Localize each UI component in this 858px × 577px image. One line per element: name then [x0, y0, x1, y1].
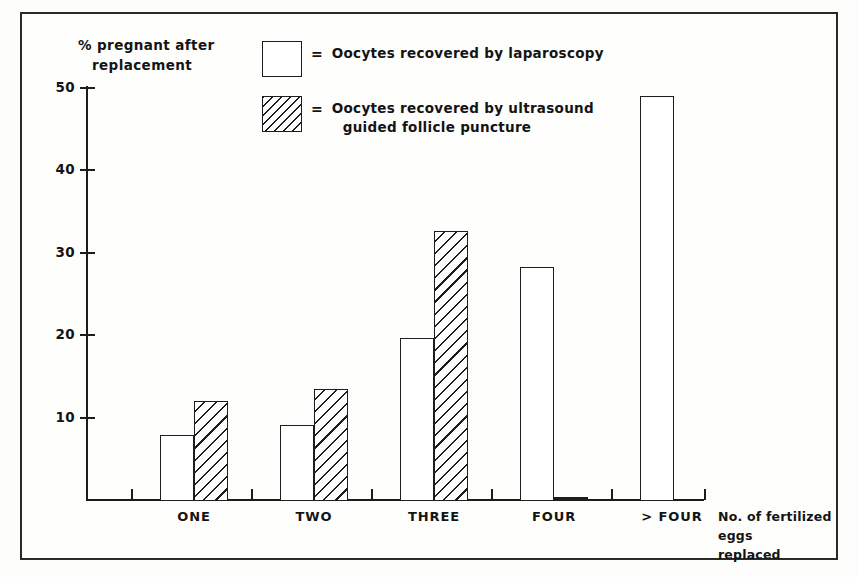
y-axis-label-text-20: 20 — [41, 326, 75, 342]
x-axis-category-label-2: THREE — [374, 509, 494, 524]
y-axis-label-10: 10 — [30, 409, 75, 425]
bar-three-open — [400, 338, 434, 501]
y-axis-line — [86, 86, 88, 501]
bar-four-open — [640, 96, 674, 501]
bar-two-hatched — [314, 389, 348, 501]
x-axis-title-line2: replaced — [718, 546, 848, 565]
y-axis-label-text-10: 10 — [41, 409, 75, 425]
x-axis-title: No. of fertilized eggs replaced — [718, 508, 848, 564]
y-axis-label-text-40: 40 — [41, 161, 75, 177]
y-axis-tick-50 — [80, 87, 95, 89]
legend-label-ultrasound-line1: Oocytes recovered by ultrasound — [332, 99, 594, 118]
legend-equals-sign-1: = — [311, 46, 323, 62]
bar-one-open — [160, 435, 194, 501]
x-axis-category-label-3: FOUR — [494, 509, 614, 524]
y-axis-tick-40 — [80, 169, 95, 171]
legend-label-laparoscopy-line1: Oocytes recovered by laparoscopy — [332, 44, 604, 63]
legend-label-ultrasound: Oocytes recovered by ultrasound guided f… — [332, 95, 594, 137]
y-axis-tick-20 — [80, 334, 95, 336]
x-axis-tick-1 — [251, 489, 253, 500]
bar-four-open — [520, 267, 554, 501]
y-axis-title-line1: % pregnant after — [78, 37, 215, 53]
bar-two-open — [280, 425, 314, 501]
chart-plot-area: % pregnant after replacement = Oocytes r… — [0, 0, 858, 577]
legend-label-ultrasound-line2: guided follicle puncture — [332, 118, 594, 137]
legend-equals-sign-2: = — [311, 101, 323, 117]
y-axis-title-line2: replacement — [78, 56, 278, 76]
x-axis-tick-2 — [371, 489, 373, 500]
x-axis-tick-0 — [131, 489, 133, 500]
x-axis-tick-5 — [704, 489, 706, 500]
x-axis-tick-4 — [611, 489, 613, 500]
bar-three-hatched — [434, 231, 468, 501]
y-axis-tick-30 — [80, 252, 95, 254]
x-axis-category-label-0: ONE — [134, 509, 254, 524]
x-axis-category-label-4: > FOUR — [612, 509, 732, 524]
y-axis-label-40: 40 — [30, 161, 75, 177]
legend-item-ultrasound: = Oocytes recovered by ultrasound guided… — [262, 95, 682, 137]
x-axis-title-line1: No. of fertilized eggs — [718, 508, 848, 546]
y-axis-label-text-30: 30 — [41, 244, 75, 260]
y-axis-title: % pregnant after replacement — [78, 36, 278, 75]
legend-item-laparoscopy: = Oocytes recovered by laparoscopy — [262, 40, 682, 77]
x-axis-category-label-1: TWO — [254, 509, 374, 524]
legend-swatch-hatched-square — [262, 96, 302, 132]
legend-label-laparoscopy: Oocytes recovered by laparoscopy — [332, 40, 604, 63]
legend-swatch-open-square — [262, 41, 302, 77]
bar-one-hatched — [194, 401, 228, 501]
y-axis-tick-10 — [80, 417, 95, 419]
figure-canvas: % pregnant after replacement = Oocytes r… — [0, 0, 858, 577]
y-axis-label-30: 30 — [30, 244, 75, 260]
y-axis-label-50: 50 — [30, 79, 75, 95]
y-axis-label-20: 20 — [30, 326, 75, 342]
bar-four-hatched — [554, 497, 588, 501]
y-axis-label-text-50: 50 — [41, 79, 75, 95]
x-axis-tick-3 — [491, 489, 493, 500]
legend: = Oocytes recovered by laparoscopy = Ooc… — [262, 40, 682, 155]
